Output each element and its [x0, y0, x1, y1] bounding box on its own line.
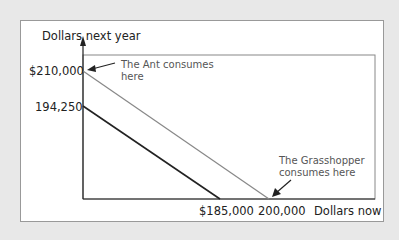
grasshopper-annotation-line1: The Grasshopper — [279, 155, 365, 167]
y-axis-label: Dollars next year — [42, 29, 141, 43]
x-tick-200000: 200,000 — [258, 204, 306, 218]
budget-line-outer — [83, 71, 269, 199]
y-tick-194250: 194,250 — [35, 100, 83, 114]
ant-arrow-icon — [87, 65, 96, 72]
ant-annotation-line2: here — [121, 71, 214, 83]
y-tick-210000: $210,000 — [29, 64, 84, 78]
ant-annotation-line1: The Ant consumes — [121, 59, 214, 71]
grasshopper-annotation: The Grasshopper consumes here — [279, 155, 365, 179]
x-tick-185000: $185,000 — [199, 204, 254, 218]
grasshopper-annotation-line2: consumes here — [279, 167, 365, 179]
ant-annotation: The Ant consumes here — [121, 59, 214, 83]
x-axis-label: Dollars now — [314, 204, 381, 218]
budget-line-inner — [83, 106, 220, 199]
